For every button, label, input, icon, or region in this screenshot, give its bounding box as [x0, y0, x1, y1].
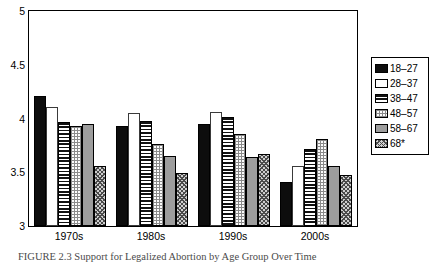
bar [292, 166, 304, 226]
figure-bar-chart: 33.544.55 1970s1980s1990s2000s 18–2728–3… [0, 0, 435, 262]
y-axis-tick-label: 3.5 [0, 167, 25, 177]
caption-text: FIGURE 2.3 Support for Legalized Abortio… [18, 251, 316, 262]
legend-label: 58–67 [390, 124, 418, 134]
x-axis-tick-label: 1990s [219, 230, 248, 242]
y-axis-tick-label: 5 [0, 6, 25, 16]
legend-label: 68* [390, 139, 405, 149]
legend-label: 48–57 [390, 109, 418, 119]
bar-group-2000s [280, 11, 352, 226]
bar [328, 166, 340, 226]
legend-swatch-icon [375, 64, 388, 73]
bar [164, 156, 176, 226]
x-axis-tick-label: 1980s [137, 230, 166, 242]
bar [116, 126, 128, 226]
legend-item: 28–37 [375, 76, 426, 91]
bar [234, 134, 246, 226]
bar [82, 124, 94, 226]
bar [222, 117, 234, 226]
bar [46, 107, 58, 226]
legend: 18–2728–3738–4748–5758–6768* [371, 57, 429, 155]
legend-item: 68* [375, 136, 426, 151]
bar-group-1990s [198, 11, 270, 226]
bar-group-1970s [34, 11, 106, 226]
y-axis: 33.544.55 [0, 0, 25, 240]
bar [340, 175, 352, 226]
legend-swatch-icon [375, 94, 388, 103]
legend-swatch-icon [375, 109, 388, 118]
legend-item: 48–57 [375, 106, 426, 121]
x-axis-tick-label: 1970s [55, 230, 84, 242]
legend-label: 18–27 [390, 64, 418, 74]
bar [258, 154, 270, 226]
bar [128, 113, 140, 226]
bar [316, 139, 328, 226]
legend-item: 38–47 [375, 91, 426, 106]
legend-label: 28–37 [390, 79, 418, 89]
bar [280, 182, 292, 226]
y-axis-tick-label: 4.5 [0, 60, 25, 70]
legend-swatch-icon [375, 139, 388, 148]
legend-item: 18–27 [375, 61, 426, 76]
bars-layer [29, 11, 357, 226]
x-axis-tick-label: 2000s [301, 230, 330, 242]
legend-swatch-icon [375, 124, 388, 133]
bar [152, 144, 164, 226]
bar [246, 157, 258, 226]
bar [34, 96, 46, 226]
bar [304, 149, 316, 226]
bar [140, 121, 152, 226]
legend-item: 58–67 [375, 121, 426, 136]
bar [198, 124, 210, 226]
y-axis-tick-label: 3 [0, 221, 25, 231]
bar-group-1980s [116, 11, 188, 226]
figure-caption: FIGURE 2.3 Support for Legalized Abortio… [18, 251, 418, 262]
bar [210, 112, 222, 226]
legend-swatch-icon [375, 79, 388, 88]
bar [58, 122, 70, 226]
x-axis: 1970s1980s1990s2000s [28, 230, 358, 244]
bar [176, 173, 188, 226]
y-axis-tick-label: 4 [0, 114, 25, 124]
bar [70, 126, 82, 226]
legend-label: 38–47 [390, 94, 418, 104]
bar [94, 166, 106, 226]
